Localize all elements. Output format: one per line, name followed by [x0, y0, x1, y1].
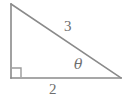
hypotenuse-length-label: 3 — [64, 19, 72, 34]
base-length-label: 2 — [49, 82, 57, 97]
right-angle-icon — [12, 68, 21, 77]
theta-angle-label: θ — [74, 57, 82, 71]
triangle-side-hypotenuse — [11, 4, 121, 78]
geometry-figure: 3 2 θ — [0, 0, 129, 101]
triangle-drawing — [0, 0, 129, 101]
